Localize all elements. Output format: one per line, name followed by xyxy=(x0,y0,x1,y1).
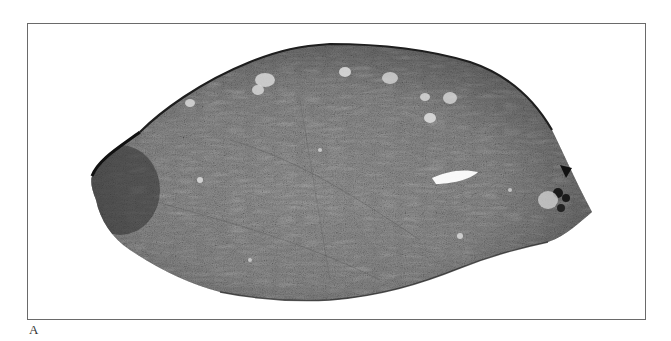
panel-label: A xyxy=(29,323,38,336)
tissue-section-image xyxy=(0,0,671,341)
tissue-body xyxy=(80,40,600,310)
